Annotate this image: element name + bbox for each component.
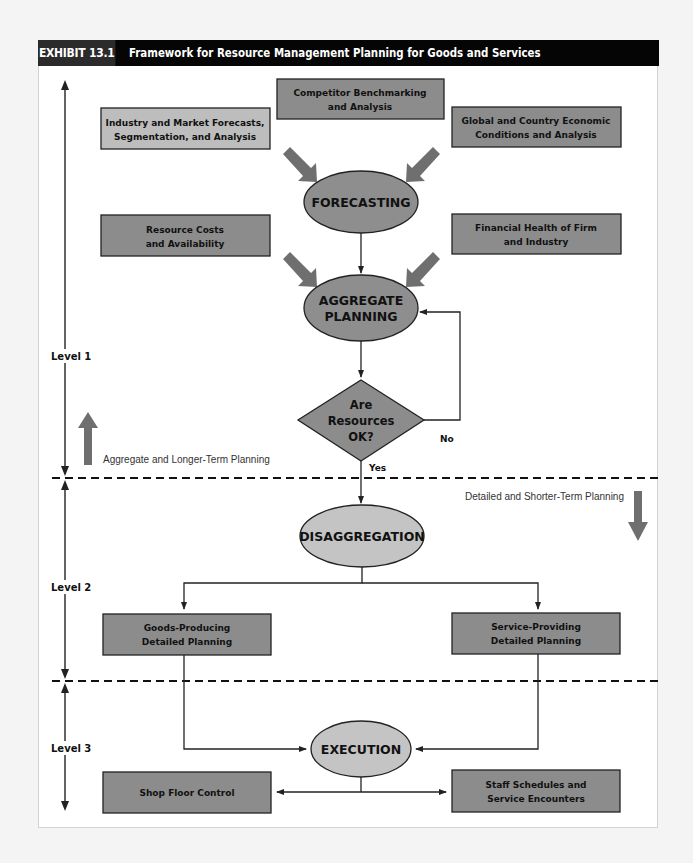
goods-planning-box: Goods-Producing Detailed Planning [103,614,271,655]
svg-text:PLANNING: PLANNING [324,309,397,324]
svg-text:Staff Schedules and: Staff Schedules and [485,780,586,790]
no-loop-connector [420,312,460,420]
global-economic-box: Global and Country Economic Conditions a… [452,107,621,147]
down-arrow-icon [628,491,648,541]
svg-text:EXECUTION: EXECUTION [321,742,401,757]
svg-text:Global and Country Economic: Global and Country Economic [462,116,611,126]
svg-text:Conditions and Analysis: Conditions and Analysis [475,130,596,140]
service-planning-box: Service-Providing Detailed Planning [452,613,620,654]
detailed-shorter-label: Detailed and Shorter-Term Planning [465,491,624,502]
disaggregation-node: DISAGGREGATION [299,505,425,567]
resources-ok-decision: Are Resources OK? [298,380,424,461]
svg-text:Industry and Market Forecasts,: Industry and Market Forecasts, [106,118,265,128]
level2-label: Level 2 [51,582,91,593]
svg-text:Service Encounters: Service Encounters [487,794,585,804]
competitor-box: Competitor Benchmarking and Analysis [277,79,444,119]
svg-text:FORECASTING: FORECASTING [311,195,410,210]
svg-text:Financial Health of Firm: Financial Health of Firm [475,223,597,233]
financial-health-box: Financial Health of Firm and Industry [452,214,621,254]
svg-text:AGGREGATE: AGGREGATE [319,293,403,308]
up-arrow-icon [78,412,98,465]
svg-text:Competitor Benchmarking: Competitor Benchmarking [293,88,426,98]
resource-costs-box: Resource Costs and Availability [101,215,270,256]
svg-text:and Analysis: and Analysis [328,102,392,112]
level1-span-arrow [61,80,69,476]
svg-text:Service-Providing: Service-Providing [491,622,581,632]
svg-text:Segmentation, and Analysis: Segmentation, and Analysis [114,132,256,142]
level2-span-arrow [61,480,69,679]
connector [184,655,306,749]
svg-text:and Industry: and Industry [504,237,569,247]
flow-diagram: Level 1 Level 2 Level 3 Aggregate and Lo… [0,0,693,863]
connector [416,654,538,749]
svg-text:Resources: Resources [328,414,395,428]
svg-text:Detailed Planning: Detailed Planning [491,636,581,646]
aggregate-longer-label: Aggregate and Longer-Term Planning [103,454,270,465]
no-label: No [440,434,454,444]
industry-box: Industry and Market Forecasts, Segmentat… [101,108,270,149]
level3-label: Level 3 [51,743,91,754]
exhibit-figure: EXHIBIT 13.1 Framework for Resource Mana… [0,0,693,863]
svg-text:and Availability: and Availability [146,239,225,249]
svg-text:DISAGGREGATION: DISAGGREGATION [299,529,425,544]
level1-label: Level 1 [51,351,91,362]
connector [362,583,538,609]
aggregate-planning-node: AGGREGATE PLANNING [304,275,418,341]
shop-floor-control-box: Shop Floor Control [103,772,271,813]
yes-label: Yes [368,463,386,473]
svg-text:OK?: OK? [348,430,373,444]
connector [184,567,362,609]
svg-text:Goods-Producing: Goods-Producing [144,623,231,633]
execution-node: EXECUTION [311,721,411,777]
svg-text:Resource Costs: Resource Costs [146,225,224,235]
svg-text:Are: Are [350,398,373,412]
svg-text:Shop Floor Control: Shop Floor Control [139,788,234,798]
svg-text:Detailed Planning: Detailed Planning [142,637,232,647]
staff-schedules-box: Staff Schedules and Service Encounters [452,770,620,812]
forecasting-node: FORECASTING [304,171,418,233]
